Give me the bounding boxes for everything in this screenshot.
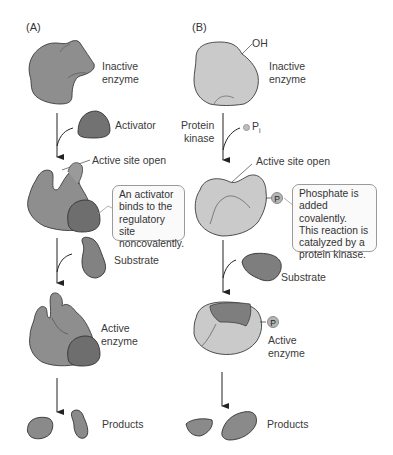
- callout-line: noncovalently.: [119, 238, 178, 250]
- substrate-b-shape: [242, 253, 281, 280]
- panel-b-active-site-label: Active site open: [256, 155, 330, 168]
- callout-line: An activator: [119, 189, 178, 201]
- callout-line: catalyzed by a: [299, 237, 370, 249]
- phosphorylated-enzyme-b-shape: [195, 175, 272, 236]
- panel-a-products-label: Products: [102, 418, 143, 431]
- product-b1-shape: [186, 419, 212, 436]
- callout-line: Phosphate is: [299, 188, 370, 200]
- active-enzyme-b-shape: [194, 302, 266, 355]
- panel-a-active-label-2: enzyme: [101, 335, 138, 348]
- enzyme-activator-complex-a: [28, 163, 100, 232]
- callout-line: added covalently.: [299, 200, 370, 225]
- active-enzyme-a-shape: [30, 293, 101, 366]
- pi-subscript: i: [259, 127, 261, 134]
- panel-a-inactive-label-2: enzyme: [102, 73, 139, 86]
- panel-b-substrate-label: Substrate: [281, 271, 326, 284]
- panel-b-inactive-label-2: enzyme: [269, 73, 306, 86]
- panel-b-products-label: Products: [267, 418, 308, 431]
- callout-line: protein kinase.: [299, 249, 370, 261]
- hydroxyl-label: OH: [252, 37, 268, 50]
- callout-line: binds to the: [119, 201, 178, 213]
- panel-a-substrate-label: Substrate: [114, 254, 159, 267]
- callout-line: regulatory site: [119, 214, 178, 239]
- inactive-enzyme-b-shape: [194, 42, 258, 106]
- inorganic-phosphate-label: Pi: [252, 120, 261, 138]
- panel-b-tag: (B): [192, 21, 207, 33]
- panel-b-inactive-label-1: Inactive: [269, 60, 305, 73]
- phosphate-badge-icon: P: [271, 192, 283, 204]
- panel-a-inactive-label-1: Inactive: [102, 60, 138, 73]
- activator-label: Activator: [115, 119, 156, 132]
- panel-a-active-site-label: Active site open: [92, 154, 166, 167]
- inactive-enzyme-a-shape: [29, 41, 94, 104]
- callout-line: This reaction is: [299, 225, 370, 237]
- activator-shape: [78, 111, 110, 138]
- product-a1-shape: [27, 417, 52, 439]
- product-b2-shape: [222, 412, 257, 440]
- phosphate-dot-icon: [243, 124, 250, 131]
- phosphate-badge-active-icon: P: [267, 316, 279, 328]
- protein-kinase-label-2: kinase: [184, 132, 214, 145]
- panel-a-callout: An activator binds to the regulatory sit…: [112, 185, 185, 241]
- product-a2-shape: [71, 410, 87, 438]
- panel-b-active-label-2: enzyme: [268, 347, 305, 360]
- panel-b-callout: Phosphate is added covalently. This reac…: [292, 184, 377, 252]
- panel-a-active-label-1: Active: [101, 322, 130, 335]
- pi-letter: P: [252, 120, 259, 132]
- panel-a-tag: (A): [26, 21, 41, 33]
- substrate-a-shape: [82, 237, 106, 278]
- protein-kinase-label-1: Protein: [181, 119, 214, 132]
- panel-b-active-label-1: Active: [268, 334, 297, 347]
